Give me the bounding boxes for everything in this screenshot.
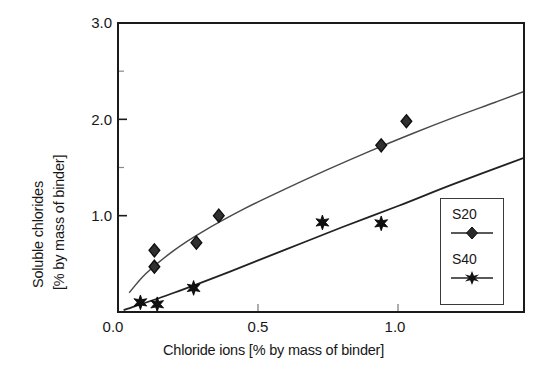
legend-marker-star-icon xyxy=(443,270,501,286)
data-point-s20 xyxy=(149,244,160,257)
data-point-s40 xyxy=(375,216,388,231)
data-point-s40 xyxy=(316,215,329,230)
data-point-s40 xyxy=(151,297,164,312)
axis-ticks xyxy=(118,23,398,312)
data-point-s20 xyxy=(401,115,412,128)
legend: S20 S40 xyxy=(440,198,504,305)
legend-label-s40: S40 xyxy=(452,251,477,267)
chart-figure: Soluble chlorides [% by mass of binder] … xyxy=(0,0,550,385)
data-point-s20 xyxy=(376,139,387,152)
legend-marker-diamond-icon xyxy=(443,225,501,241)
data-markers xyxy=(134,115,412,312)
plot-canvas xyxy=(0,0,550,385)
legend-label-s20: S20 xyxy=(452,206,477,222)
